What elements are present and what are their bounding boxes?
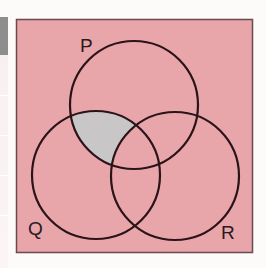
label-q: Q — [28, 218, 43, 239]
venn-diagram: P Q R — [0, 0, 266, 268]
label-p: P — [80, 35, 93, 56]
label-r: R — [221, 222, 235, 243]
